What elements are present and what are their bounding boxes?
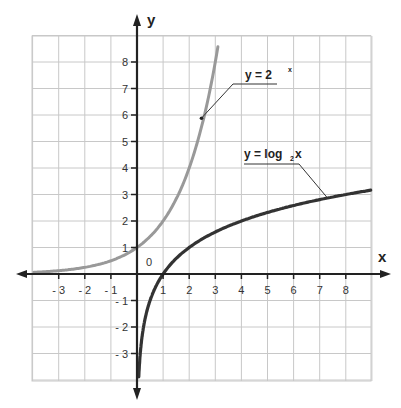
log2-label-subscript: 2 <box>290 155 294 162</box>
exp2-label: y = 2 <box>245 68 272 82</box>
y-axis-down-arrow-icon <box>133 388 141 400</box>
x-tick-label: 7 <box>317 284 323 296</box>
x-tick-label: 5 <box>264 284 270 296</box>
x-tick-label: 2 <box>186 284 192 296</box>
origin-label: 0 <box>146 256 152 268</box>
x-tick-label: 1 <box>160 284 166 296</box>
x-tick-label: - 3 <box>52 284 65 296</box>
x-axis-right-arrow-icon <box>380 270 391 278</box>
exp2-leader-line <box>201 84 277 118</box>
curve-log2 <box>139 190 371 377</box>
y-tick-label: 4 <box>122 162 128 174</box>
x-tick-label: - 2 <box>78 284 91 296</box>
y-axis-up-arrow-icon <box>133 14 141 26</box>
log2-label: y = log <box>244 147 282 161</box>
y-tick-label: 8 <box>122 56 128 68</box>
curve-exp2 <box>34 47 218 272</box>
y-tick-label: 6 <box>122 109 128 121</box>
x-tick-label: 8 <box>343 284 349 296</box>
annotations: y = 2xy = log2 x <box>200 66 328 198</box>
exp2-point-marker <box>200 116 204 120</box>
function-graph: - 3- 2- 11234567887654321- 1- 2- 30yx y … <box>0 0 401 408</box>
exp2-label-superscript: x <box>288 66 292 73</box>
y-tick-label: 5 <box>122 136 128 148</box>
y-tick-label: 3 <box>122 189 128 201</box>
y-axis-label: y <box>147 11 156 28</box>
y-tick-label: - 2 <box>115 321 128 333</box>
x-axis-label: x <box>378 248 387 265</box>
grid <box>32 36 372 382</box>
x-axis-left-arrow-icon <box>16 270 27 278</box>
x-tick-label: 6 <box>291 284 297 296</box>
axes <box>16 14 391 400</box>
y-tick-label: - 1 <box>115 295 128 307</box>
x-tick-label: 4 <box>238 284 244 296</box>
y-tick-label: 2 <box>122 215 128 227</box>
x-tick-label: 3 <box>212 284 218 296</box>
y-tick-label: 7 <box>122 83 128 95</box>
log2-label-tail: x <box>295 147 302 161</box>
tick-labels: - 3- 2- 11234567887654321- 1- 2- 30yx <box>52 11 387 360</box>
y-tick-label: - 3 <box>115 348 128 360</box>
log2-leader-line <box>244 164 328 198</box>
y-tick-label: 1 <box>122 242 128 254</box>
